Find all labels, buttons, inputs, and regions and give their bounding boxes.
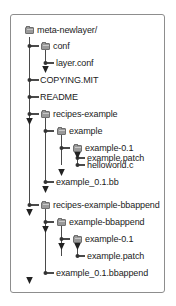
- tree-node-label: README: [40, 90, 78, 105]
- tree-node-label: COPYING.MIT: [40, 73, 98, 88]
- tree-node-meta-newlayer[interactable]: meta-newlayer/: [25, 23, 97, 38]
- tree-node-label: example_0.1.bb: [56, 175, 119, 190]
- tree-node-copying-mit[interactable]: COPYING.MIT: [40, 73, 98, 88]
- tree-node-example-bbappend[interactable]: example-bbappend: [57, 215, 144, 230]
- diagram-canvas: meta-newlayer/ conf layer.conf COPYING.M…: [0, 0, 176, 306]
- tree-node-layer-conf[interactable]: layer.conf: [56, 56, 94, 71]
- tree-node-label: example: [69, 124, 102, 139]
- folder-icon: [73, 236, 82, 243]
- tree-node-example-0-1-bb[interactable]: example_0.1.bb: [56, 175, 119, 190]
- tree-node-label: meta-newlayer/: [37, 23, 97, 38]
- tree-node-label: recipes-example-bbappend: [53, 198, 160, 213]
- tree-node-conf[interactable]: conf: [41, 39, 70, 54]
- folder-icon: [57, 128, 66, 135]
- folder-icon: [41, 111, 50, 118]
- folder-icon: [41, 202, 50, 209]
- tree-node-label: conf: [53, 39, 70, 54]
- tree-node-label: layer.conf: [56, 56, 94, 71]
- tree-node-example-0-1-bbappend[interactable]: example_0.1.bbappend: [56, 266, 148, 281]
- tree-node-recipes-example-bbappend[interactable]: recipes-example-bbappend: [41, 198, 160, 213]
- tree-node-label: recipes-example: [53, 107, 118, 122]
- folder-icon: [25, 27, 34, 34]
- tree-node-label: example.patch: [87, 249, 144, 264]
- tree-node-helloworld-c[interactable]: helloworld.c: [87, 158, 133, 173]
- tree-node-example-0-1-bbappend-dir[interactable]: example-0.1: [73, 232, 133, 247]
- tree-node-readme[interactable]: README: [40, 90, 78, 105]
- tree-node-example[interactable]: example: [57, 124, 102, 139]
- tree-node-recipes-example[interactable]: recipes-example: [41, 107, 118, 122]
- tree-node-label: example_0.1.bbappend: [56, 266, 148, 281]
- folder-icon: [41, 43, 50, 50]
- folder-icon: [73, 145, 82, 152]
- tree-node-label: helloworld.c: [87, 158, 133, 173]
- tree-node-example-patch-2[interactable]: example.patch: [87, 249, 144, 264]
- folder-icon: [57, 219, 66, 226]
- tree-node-label: example-0.1: [85, 232, 133, 247]
- tree-node-label: example-bbappend: [69, 215, 144, 230]
